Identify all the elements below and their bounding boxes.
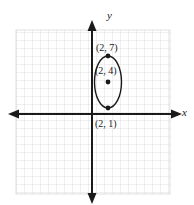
x-axis-label: x bbox=[182, 107, 187, 118]
point-bottom-vertex bbox=[106, 106, 111, 111]
point-top-vertex bbox=[106, 54, 111, 59]
point-label-bottom-vertex: (2, 1) bbox=[95, 119, 117, 129]
y-axis-label: y bbox=[107, 10, 112, 21]
point-label-top-vertex: (2, 7) bbox=[96, 43, 118, 53]
point-label-center: (2, 4) bbox=[95, 66, 117, 76]
coordinate-plane-svg bbox=[0, 0, 194, 205]
point-center bbox=[106, 80, 111, 85]
ellipse-graph-figure: y x (2, 7) (2, 4) (2, 1) bbox=[0, 0, 194, 205]
